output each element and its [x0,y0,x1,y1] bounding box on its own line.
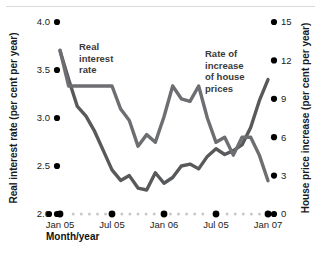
annotation-real-interest-rate: rate [79,64,96,75]
y-axis-right-tick-dot [271,19,277,25]
x-axis-minor-dot [250,213,253,216]
x-axis-minor-dot [145,213,148,216]
y-axis-right-tick-label: 9 [281,93,286,104]
annotation-real-interest-rate: Real [79,41,99,52]
y-axis-right-tick-dot [271,96,277,102]
x-axis-title: Month/year [46,231,99,242]
top-divider [6,6,315,7]
x-axis-minor-dot [177,213,180,216]
chart-container: Real interest rate (per cent per year) H… [0,0,321,259]
x-axis-minor-dot [88,213,91,216]
x-axis-tick-dot [109,211,116,218]
line-chart: Real interest rate (per cent per year) H… [0,0,321,259]
y-axis-left-tick-dot [54,67,60,73]
x-axis-minor-dot [169,213,172,216]
x-axis-minor-dot [258,213,261,216]
x-axis-minor-dot [120,213,123,216]
x-axis-tick-label: Jan 06 [150,219,179,230]
x-axis-minor-dot [72,213,75,216]
x-axis-minor-dot [185,213,188,216]
y-axis-left-ticks: 2.02.53.03.54.0 [37,16,60,219]
y-axis-left-tick-label: 3.0 [37,112,50,123]
x-axis-minor-dot [104,213,107,216]
x-axis-minor-dot [96,213,99,216]
y-axis-right-tick-dot [271,57,277,63]
y-axis-right-title: House price increase (per cent per year) [300,23,311,214]
x-axis-tick-label: Jul 05 [203,219,228,230]
x-axis-tick-dot [161,211,168,218]
x-axis-tick-dot [265,211,272,218]
y-axis-right-tick-label: 0 [281,208,286,219]
x-axis-minor-dot [153,213,156,216]
y-axis-left-tick-label: 2.5 [37,160,50,171]
x-axis-tick-label: Jan 05 [46,219,75,230]
x-axis-minor-dot [128,213,131,216]
y-axis-left-tick-dot [54,163,60,169]
x-axis-minor-dot [226,213,229,216]
annotation-house-prices: prices [205,83,233,94]
y-axis-right-tick-dot [271,134,277,140]
x-axis-origin-dot [46,211,52,217]
x-axis-tick-label: Jul 05 [99,219,124,230]
x-axis-tick-dot [213,211,220,218]
annotation-real-interest-rate: interest [79,53,114,64]
y-axis-left-title: Real interest rate (per cent per year) [8,32,19,203]
y-axis-right-tick-label: 6 [281,132,286,143]
y-axis-right-tick-dot [271,173,277,179]
y-axis-left-tick-label: 3.5 [37,64,50,75]
x-axis-tick-dot [57,211,64,218]
x-axis-minor-dot [137,213,140,216]
annotation-house-prices: of house [205,71,245,82]
y-axis-right-tick-label: 3 [281,170,286,181]
y-axis-left-tick-label: 4.0 [37,16,50,27]
y-axis-left-tick-dot [54,115,60,121]
x-axis-minor-dot [193,213,196,216]
y-axis-right-tick-label: 15 [281,16,292,27]
y-axis-right-tick-label: 12 [281,55,292,66]
annotation-house-prices: Rate of [205,48,238,59]
x-axis-minor-dot [242,213,245,216]
y-axis-left-tick-dot [54,19,60,25]
x-axis-tick-label: Jan 07 [254,219,283,230]
x-axis-minor-dot [80,213,83,216]
y-axis-right-tick-dot [271,211,277,217]
y-axis-right-ticks: 03691215 [271,16,292,219]
x-axis-minor-dot [234,213,237,216]
x-axis-dotted-line [46,211,261,217]
x-axis-minor-dot [201,213,204,216]
annotation-house-prices: increase [205,60,244,71]
